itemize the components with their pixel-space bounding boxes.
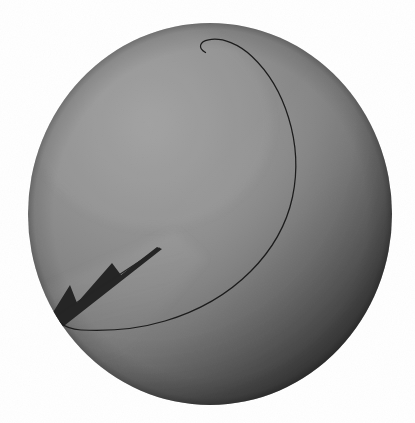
film-grain-overlay: [0, 0, 415, 423]
sphere-spiral-figure: Logarithmic spiral with sawtooth band on…: [0, 0, 415, 423]
figure-container: Logarithmic spiral with sawtooth band on…: [0, 0, 415, 423]
